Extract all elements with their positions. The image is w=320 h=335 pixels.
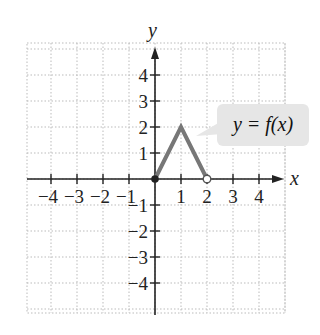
y-tick-label: 1 xyxy=(139,143,149,164)
x-tick-label: 2 xyxy=(202,186,212,207)
y-tick-label: 3 xyxy=(139,91,149,112)
y-axis-label: y xyxy=(146,19,157,42)
x-tick-label: −2 xyxy=(90,186,110,207)
x-tick-label: −3 xyxy=(64,186,84,207)
x-tick-label: 3 xyxy=(228,186,238,207)
closed-endpoint xyxy=(151,175,159,183)
y-tick-label: 2 xyxy=(139,117,149,138)
x-tick-label: −4 xyxy=(38,186,59,207)
x-axis-label: x xyxy=(289,167,299,189)
y-tick-label: −1 xyxy=(128,195,148,216)
callout: y = f(x) xyxy=(196,104,309,146)
y-tick-label: −2 xyxy=(128,221,148,242)
y-tick-label: 4 xyxy=(139,65,149,86)
y-tick-label: −3 xyxy=(128,247,148,268)
callout-label: y = f(x) xyxy=(231,113,293,136)
x-tick-label: 1 xyxy=(176,186,186,207)
open-endpoint xyxy=(203,175,211,183)
function-graph: −4−3−2−112344321−1−2−3−4 y = f(x) x y xyxy=(0,0,320,335)
x-tick-label: 4 xyxy=(254,186,264,207)
y-tick-label: −4 xyxy=(128,273,149,294)
